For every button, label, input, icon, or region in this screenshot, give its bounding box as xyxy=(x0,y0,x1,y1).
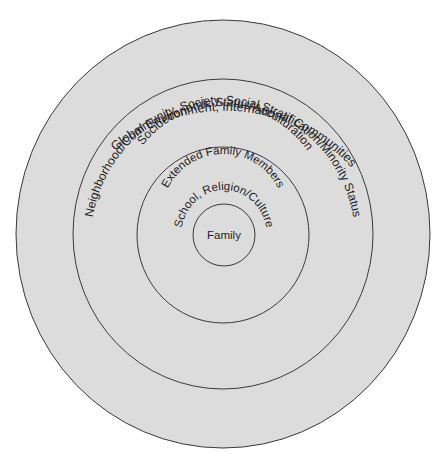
ecological-systems-diagram: Global Environment, International Commun… xyxy=(0,0,444,465)
label-family: Family xyxy=(207,229,241,241)
